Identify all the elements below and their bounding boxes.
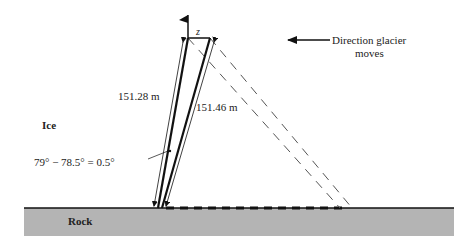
borehole-line-right [162, 38, 210, 208]
dashed-line-right [210, 38, 352, 208]
angle-dot [169, 150, 171, 152]
glacier-diagram: z 151.28 m 151.46 m Ice 79° − 78.5° = 0.… [0, 0, 473, 246]
z-label: z [195, 26, 200, 37]
rock-label: Rock [68, 215, 93, 227]
flag-icon [179, 15, 188, 23]
dashed-line-left [188, 38, 340, 208]
direction-label-line1: Direction glacier [332, 34, 407, 46]
right-length-label: 151.46 m [196, 101, 238, 113]
left-length-label: 151.28 m [118, 90, 160, 102]
direction-label-line2: moves [355, 47, 384, 59]
ice-label: Ice [42, 119, 56, 131]
angle-equation-label: 79° − 78.5° = 0.5° [34, 156, 115, 168]
angle-leader-line [148, 151, 168, 159]
